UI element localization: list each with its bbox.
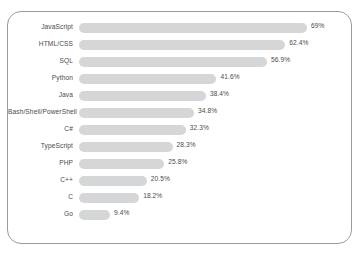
bar-category-label: C	[8, 194, 79, 201]
bar-row: Java38.4%	[8, 87, 351, 104]
bar-category-label: C#	[8, 126, 79, 133]
bar-category-label: TypeScript	[8, 143, 79, 150]
bar-fill	[79, 125, 186, 135]
bar-track: 9.4%	[79, 206, 351, 223]
bar-chart: JavaScript69%HTML/CSS62.4%SQL56.9%Python…	[8, 19, 351, 223]
bar-row: Python41.6%	[8, 70, 351, 87]
bar-fill	[79, 210, 110, 220]
bar-track: 38.4%	[79, 87, 351, 104]
bar-row: C#32.3%	[8, 121, 351, 138]
bar-track: 34.8%	[79, 104, 351, 121]
chart-card: JavaScript69%HTML/CSS62.4%SQL56.9%Python…	[7, 11, 352, 244]
bar-row: C++20.5%	[8, 172, 351, 189]
bar-track: 20.5%	[79, 172, 351, 189]
bar-value-label: 38.4%	[210, 91, 229, 98]
bar-fill	[79, 40, 285, 50]
bar-fill	[79, 159, 164, 169]
bar-category-label: PHP	[8, 160, 79, 167]
bar-value-label: 20.5%	[151, 176, 170, 183]
bar-value-label: 62.4%	[289, 40, 308, 47]
bar-fill	[79, 108, 194, 118]
bar-row: Bash/Shell/PowerShell34.8%	[8, 104, 351, 121]
bar-fill	[79, 74, 216, 84]
bar-row: Go9.4%	[8, 206, 351, 223]
bar-fill	[79, 91, 206, 101]
bar-category-label: SQL	[8, 58, 79, 65]
bar-track: 62.4%	[79, 36, 351, 53]
bar-track: 41.6%	[79, 70, 351, 87]
bar-fill	[79, 193, 139, 203]
bar-value-label: 69%	[311, 23, 325, 30]
bar-value-label: 34.8%	[198, 108, 217, 115]
bar-row: C18.2%	[8, 189, 351, 206]
bar-category-label: Java	[8, 92, 79, 99]
bar-value-label: 28.3%	[177, 142, 196, 149]
bar-category-label: C++	[8, 177, 79, 184]
bar-row: HTML/CSS62.4%	[8, 36, 351, 53]
bar-category-label: Go	[8, 211, 79, 218]
bar-fill	[79, 142, 173, 152]
bar-value-label: 25.8%	[168, 159, 187, 166]
bar-value-label: 56.9%	[271, 57, 290, 64]
bar-row: TypeScript28.3%	[8, 138, 351, 155]
bar-category-label: Bash/Shell/PowerShell	[8, 109, 79, 116]
bar-category-label: HTML/CSS	[8, 41, 79, 48]
bar-track: 56.9%	[79, 53, 351, 70]
bar-track: 28.3%	[79, 138, 351, 155]
bar-track: 32.3%	[79, 121, 351, 138]
bar-track: 25.8%	[79, 155, 351, 172]
bar-row: JavaScript69%	[8, 19, 351, 36]
bar-value-label: 18.2%	[143, 193, 162, 200]
bar-fill	[79, 23, 307, 33]
bar-track: 18.2%	[79, 189, 351, 206]
bar-value-label: 9.4%	[114, 210, 129, 217]
bar-category-label: Python	[8, 75, 79, 82]
bar-value-label: 41.6%	[220, 74, 239, 81]
bar-row: PHP25.8%	[8, 155, 351, 172]
bar-fill	[79, 57, 267, 67]
bar-fill	[79, 176, 147, 186]
bar-track: 69%	[79, 19, 351, 36]
bar-value-label: 32.3%	[190, 125, 209, 132]
bar-category-label: JavaScript	[8, 24, 79, 31]
bar-row: SQL56.9%	[8, 53, 351, 70]
